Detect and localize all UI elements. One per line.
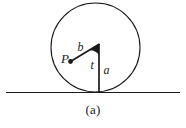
label-segment-a: a: [104, 63, 110, 77]
figure-container: P b t a (a): [0, 0, 186, 128]
label-segment-b: b: [78, 40, 84, 54]
label-angle-t: t: [91, 58, 95, 72]
figure-caption: (a): [0, 102, 186, 118]
segment-b-line: [71, 44, 100, 61]
label-point-p: P: [60, 51, 69, 66]
